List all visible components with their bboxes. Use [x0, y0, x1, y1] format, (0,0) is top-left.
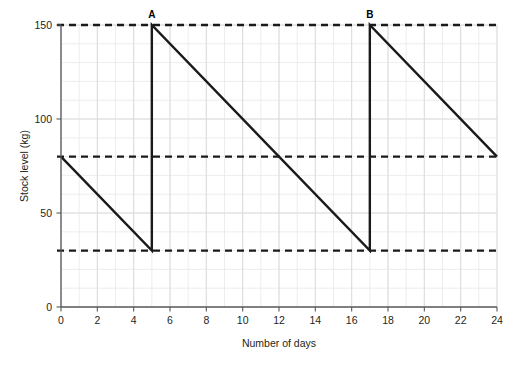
annotation-label-A: A	[148, 9, 155, 20]
y-tick-label: 0	[46, 301, 52, 313]
stock-level-chart: 024681012141618202224 050100150 AB Numbe…	[0, 0, 517, 366]
x-tick-label: 8	[203, 314, 209, 326]
x-tick-label: 24	[491, 314, 503, 326]
x-tick-label: 22	[455, 314, 467, 326]
x-axis-title: Number of days	[242, 337, 316, 349]
chart-background	[0, 0, 517, 366]
x-tick-label: 0	[58, 314, 64, 326]
y-tick-label: 150	[34, 19, 52, 31]
x-tick-label: 14	[309, 314, 321, 326]
x-tick-label: 6	[167, 314, 173, 326]
y-tick-label: 50	[40, 207, 52, 219]
x-tick-label: 10	[237, 314, 249, 326]
x-tick-label: 16	[346, 314, 358, 326]
chart-canvas: 024681012141618202224 050100150 AB Numbe…	[0, 0, 517, 366]
y-tick-label: 100	[34, 113, 52, 125]
x-tick-label: 12	[273, 314, 285, 326]
x-tick-label: 2	[94, 314, 100, 326]
x-tick-label: 4	[131, 314, 137, 326]
y-axis-title: Stock level (kg)	[18, 130, 30, 202]
x-tick-label: 18	[382, 314, 394, 326]
x-tick-label: 20	[418, 314, 430, 326]
annotation-label-B: B	[366, 9, 373, 20]
